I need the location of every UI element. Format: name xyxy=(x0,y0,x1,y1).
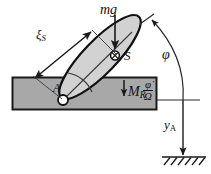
phi-angle-label: φ xyxy=(162,48,170,62)
y-a-subscript: A xyxy=(170,123,176,133)
figure-canvas: mg ξS S A MR φ̇ Ω φ yA xyxy=(0,0,211,174)
center-of-mass-label: S xyxy=(124,49,131,62)
ground-line xyxy=(162,157,206,165)
weight-label: mg xyxy=(100,3,117,17)
friction-moment-symbol: M xyxy=(128,84,140,99)
phidot-over-omega-fraction: φ̇ Ω xyxy=(143,79,153,102)
rod-tip-tick xyxy=(140,14,154,24)
pivot-label: A xyxy=(53,82,60,94)
xi-s-label: ξS xyxy=(36,28,46,43)
fraction-numerator: φ̇ xyxy=(143,79,153,90)
y-a-label: yA xyxy=(164,118,176,133)
fraction-denominator: Ω xyxy=(143,90,153,102)
diagram-svg xyxy=(0,0,211,174)
xi-s-subscript: S xyxy=(42,33,46,43)
